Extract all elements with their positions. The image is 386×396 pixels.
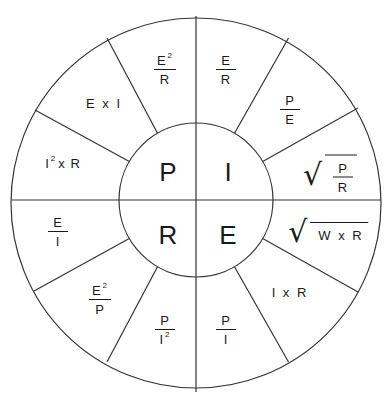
current-letter: I (224, 159, 231, 185)
formula-i-squared-x-r: I2x R (45, 157, 81, 170)
resistance-letter: R (159, 222, 178, 248)
formula-e-over-r: ER (216, 54, 236, 86)
formula-i-x-r: I x R (272, 286, 309, 299)
formula-e-squared-over-p: E2P (89, 284, 111, 316)
voltage-letter: E (219, 222, 236, 248)
square-root-icon: √ (288, 217, 308, 247)
square-root-icon: √ (303, 159, 323, 189)
formula-e-x-i: E x I (86, 97, 122, 110)
formula-e-over-i: EI (48, 216, 68, 248)
formula-sqrt-p-over-r: √ PR (303, 155, 357, 194)
formula-e-squared-over-r: E2R (154, 54, 176, 86)
formula-p-over-i-squared: PI2 (155, 314, 175, 346)
formula-p-over-i: PI (216, 314, 236, 346)
formula-sqrt-w-x-r: √ W x R (288, 217, 368, 247)
formula-p-over-e: PE (280, 94, 300, 126)
power-letter: P (159, 159, 176, 185)
ohms-law-wheel (0, 0, 386, 396)
